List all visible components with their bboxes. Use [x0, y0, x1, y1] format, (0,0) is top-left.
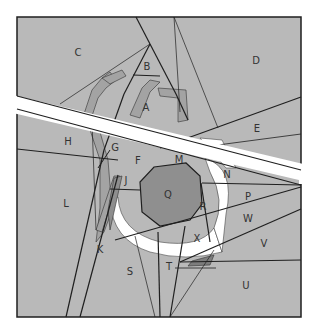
region-label-t: T — [165, 261, 173, 272]
region-label-k: K — [97, 244, 104, 255]
band-gap-right — [299, 171, 304, 184]
region-label-h: H — [64, 136, 72, 147]
region-label-x: X — [194, 233, 201, 244]
region-label-n: N — [223, 169, 230, 180]
region-label-p: P — [245, 191, 251, 202]
region-label-w: W — [243, 213, 253, 224]
region-label-u: U — [242, 280, 249, 291]
region-label-j: J — [124, 175, 128, 186]
region-label-r: R — [200, 201, 207, 212]
region-label-g: G — [111, 142, 119, 153]
region-label-b: B — [144, 61, 151, 72]
region-label-m: M — [175, 154, 184, 165]
region-label-q: Q — [164, 189, 172, 200]
region-label-f: F — [135, 155, 141, 166]
region-label-c: C — [75, 47, 82, 58]
region-label-s: S — [127, 266, 133, 277]
region-label-v: V — [261, 238, 268, 249]
region-label-a: A — [143, 102, 150, 113]
band-gap-left — [14, 97, 19, 108]
region-label-l: L — [63, 198, 69, 209]
region-label-d: D — [252, 55, 260, 66]
paper-piecing-diagram: A B C D E F G H J K L M N P Q R S T U V … — [0, 0, 316, 333]
region-label-e: E — [254, 123, 260, 134]
